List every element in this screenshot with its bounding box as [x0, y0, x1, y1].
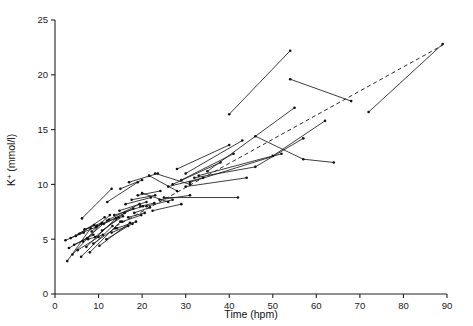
- data-point-case-28-1: [145, 201, 148, 204]
- data-point-case-10-1: [111, 225, 114, 228]
- y-axis-title-base: K: [5, 179, 17, 186]
- trend-line: [116, 45, 443, 226]
- data-point-case-58-1: [441, 43, 444, 46]
- data-point-case-44-0: [163, 196, 166, 199]
- y-tick-label-15: 15: [37, 124, 48, 135]
- x-tick-label-80: 80: [398, 300, 409, 311]
- data-point-case-53-1: [271, 155, 274, 158]
- data-point-case-58-0: [367, 111, 370, 114]
- data-point-case-42-1: [180, 203, 183, 206]
- data-point-case-13-1: [115, 217, 118, 220]
- data-point-case-53-2: [324, 120, 327, 123]
- data-point-case-19-0: [96, 225, 99, 228]
- y-tick-label-0: 0: [43, 288, 48, 299]
- series-line-case-50: [177, 145, 229, 169]
- data-point-case-56-1: [302, 158, 305, 161]
- data-point-case-02-1: [89, 227, 92, 230]
- data-point-case-13-0: [85, 246, 88, 249]
- x-tick-label-90: 90: [442, 300, 453, 311]
- data-point-case-36-1: [110, 187, 113, 190]
- data-point-case-54-0: [206, 170, 209, 173]
- data-point-case-38-1: [141, 179, 144, 182]
- data-point-case-05-0: [71, 253, 74, 256]
- data-point-case-01-0: [64, 239, 67, 242]
- data-point-case-11-0: [82, 240, 85, 243]
- data-point-case-08-0: [76, 249, 79, 252]
- data-point-case-51-1: [280, 152, 283, 155]
- data-point-case-35-1: [153, 202, 156, 205]
- data-point-case-53-0: [197, 174, 200, 177]
- data-point-case-22-1: [132, 207, 135, 210]
- data-point-case-26-0: [113, 214, 116, 217]
- data-point-case-43-0: [158, 198, 161, 201]
- data-point-case-01-1: [82, 231, 85, 234]
- data-point-case-60-1: [176, 190, 179, 193]
- data-point-case-43-1: [189, 194, 192, 197]
- data-point-case-14-0: [87, 238, 90, 241]
- data-point-case-34-1: [159, 190, 162, 193]
- data-point-case-37-1: [136, 181, 139, 184]
- data-point-case-49-1: [241, 139, 244, 142]
- data-point-case-41-1: [171, 198, 174, 201]
- data-point-case-51-0: [189, 181, 192, 184]
- data-point-case-56-2: [332, 161, 335, 164]
- data-point-case-41-0: [145, 205, 148, 208]
- data-point-case-45-0: [167, 185, 170, 188]
- data-point-case-18-0: [94, 236, 97, 239]
- data-point-case-06-1: [92, 234, 95, 237]
- x-axis-title: Time (hpm): [224, 308, 277, 320]
- y-tick-label-5: 5: [43, 234, 48, 245]
- data-point-case-09-0: [78, 232, 81, 235]
- series-line-case-36: [82, 189, 112, 219]
- data-point-case-03-0: [68, 247, 71, 250]
- data-point-case-15-0: [89, 251, 92, 254]
- data-point-case-59-0: [184, 185, 187, 188]
- data-point-case-06-0: [73, 243, 76, 246]
- data-point-case-16-1: [109, 214, 112, 217]
- data-point-case-24-0: [108, 218, 111, 221]
- svg-text:K+ (mmol/l): K+ (mmol/l): [5, 134, 17, 186]
- data-point-case-04-0: [69, 237, 72, 240]
- data-point-case-16-0: [90, 230, 93, 233]
- series-line-case-59: [186, 178, 247, 187]
- data-point-case-57-1: [350, 100, 353, 103]
- figure-container: 0510152025 0102030405060708090 Time (hpm…: [0, 0, 473, 326]
- data-point-case-52-1: [254, 166, 257, 169]
- data-point-case-50-0: [176, 168, 179, 171]
- data-point-case-07-0: [75, 235, 78, 238]
- data-point-case-33-1: [149, 206, 152, 209]
- data-point-case-31-0: [127, 216, 130, 219]
- data-point-case-46-0: [154, 172, 157, 175]
- data-point-case-20-0: [98, 244, 101, 247]
- axes: [55, 20, 447, 294]
- data-point-case-40-0: [141, 192, 144, 195]
- y-tick-label-10: 10: [37, 179, 48, 190]
- data-point-case-07-1: [103, 216, 106, 219]
- data-point-case-14-1: [102, 234, 105, 237]
- data-point-case-29-0: [121, 220, 124, 223]
- series-line-case-52: [194, 138, 303, 177]
- series-line-case-57: [290, 79, 351, 101]
- data-point-case-49-0: [184, 172, 187, 175]
- data-point-case-42-0: [151, 209, 154, 212]
- data-point-case-26-1: [142, 205, 145, 208]
- x-tick-label-60: 60: [311, 300, 322, 311]
- data-point-case-25-1: [131, 223, 134, 226]
- data-point-case-39-1: [156, 172, 159, 175]
- data-point-case-48-1: [232, 152, 235, 155]
- data-point-case-28-0: [118, 209, 121, 212]
- x-tick-label-20: 20: [137, 300, 148, 311]
- data-point-case-39-0: [128, 181, 131, 184]
- series-line-case-37: [107, 182, 137, 202]
- data-point-case-30-1: [150, 196, 153, 199]
- data-point-case-36-0: [81, 217, 84, 220]
- data-point-case-48-0: [180, 179, 183, 182]
- data-point-case-25-0: [110, 231, 113, 234]
- y-axis-ticks: 0510152025: [37, 14, 55, 299]
- y-axis-title-units: (mmol/l): [5, 134, 17, 175]
- data-point-case-33-0: [133, 212, 136, 215]
- data-point-case-55-1: [289, 49, 292, 52]
- data-point-case-22-0: [102, 223, 105, 226]
- data-point-case-37-0: [106, 201, 109, 204]
- data-point-case-18-1: [123, 212, 126, 215]
